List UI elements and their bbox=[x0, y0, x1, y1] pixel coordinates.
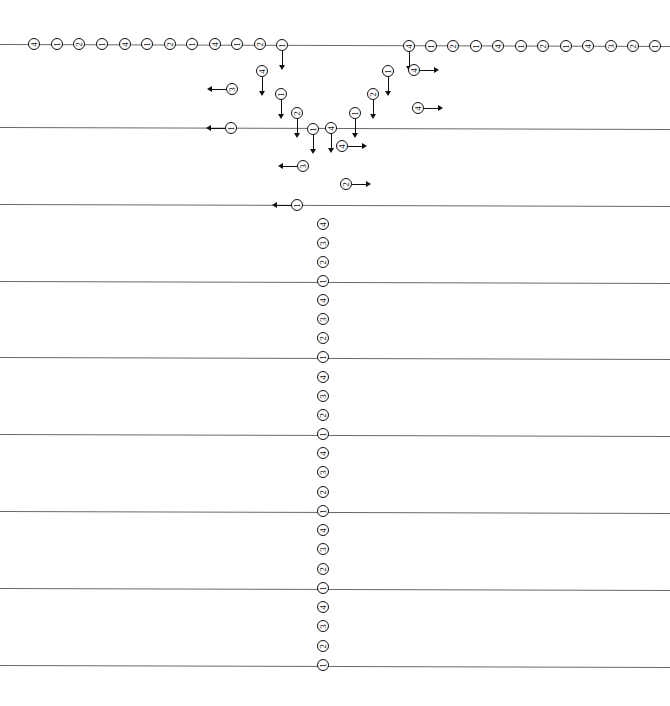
point-marker-circle: 1 bbox=[317, 275, 329, 287]
gridline-3 bbox=[0, 204, 670, 207]
point-marker-label: 4 bbox=[327, 126, 336, 131]
point-marker-label: 2 bbox=[319, 567, 328, 572]
point-marker-label: 2 bbox=[539, 44, 548, 49]
point-marker-label: 3 bbox=[228, 87, 237, 92]
point-marker-label: 4 bbox=[258, 69, 267, 74]
point-marker-circle: 1 bbox=[317, 505, 329, 517]
point-marker-circle: 1 bbox=[225, 122, 237, 134]
point-marker-circle: 4 bbox=[336, 140, 348, 152]
point-marker-label: 4 bbox=[410, 68, 419, 73]
point-marker-circle: 2 bbox=[317, 332, 329, 344]
point-marker-circle: 1 bbox=[425, 40, 437, 52]
point-marker-circle: 3 bbox=[317, 390, 329, 402]
point-marker-label: 2 bbox=[319, 413, 328, 418]
point-marker-circle: 3 bbox=[317, 237, 329, 249]
point-marker-label: 4 bbox=[319, 451, 328, 456]
censor-arrow-left-icon bbox=[282, 166, 297, 167]
point-marker-circle: 3 bbox=[317, 620, 329, 632]
point-marker-circle: 2 bbox=[537, 40, 549, 52]
point-marker-circle: 2 bbox=[291, 107, 303, 119]
point-marker-circle: 1 bbox=[96, 38, 108, 50]
point-marker-label: 1 bbox=[293, 203, 302, 208]
point-marker-label: 1 bbox=[143, 42, 152, 47]
point-marker-label: 1 bbox=[319, 279, 328, 284]
point-marker-label: 4 bbox=[319, 528, 328, 533]
point-marker-label: 4 bbox=[319, 605, 328, 610]
point-marker-circle: 4 bbox=[317, 447, 329, 459]
point-marker-label: 1 bbox=[277, 92, 286, 97]
point-marker-circle: 3 bbox=[317, 313, 329, 325]
point-marker-label: 1 bbox=[98, 42, 107, 47]
point-marker-label: 1 bbox=[427, 44, 436, 49]
point-marker-circle: 4 bbox=[582, 40, 594, 52]
censor-arrow-right-icon bbox=[424, 108, 439, 109]
point-marker-label: 3 bbox=[319, 241, 328, 246]
point-marker-label: 1 bbox=[319, 663, 328, 668]
censor-arrow-left-icon bbox=[276, 205, 291, 206]
point-marker-label: 1 bbox=[309, 127, 318, 132]
censor-arrow-left-icon bbox=[211, 89, 226, 90]
point-marker-label: 3 bbox=[319, 470, 328, 475]
point-marker-label: 2 bbox=[342, 182, 351, 187]
point-marker-circle: 1 bbox=[649, 40, 661, 52]
point-marker-circle: 2 bbox=[254, 38, 266, 50]
point-marker-circle: 4 bbox=[317, 371, 329, 383]
point-marker-circle: 1 bbox=[349, 107, 361, 119]
point-marker-circle: 4 bbox=[317, 524, 329, 536]
point-marker-circle: 4 bbox=[325, 122, 337, 134]
gridline-5 bbox=[0, 357, 670, 360]
point-marker-circle: 4 bbox=[408, 64, 420, 76]
censor-arrow-down-icon bbox=[388, 77, 389, 92]
point-marker-circle: 2 bbox=[627, 40, 639, 52]
point-marker-label: 3 bbox=[319, 317, 328, 322]
point-marker-label: 2 bbox=[319, 336, 328, 341]
point-marker-label: 1 bbox=[53, 42, 62, 47]
point-marker-label: 1 bbox=[472, 44, 481, 49]
point-marker-label: 1 bbox=[188, 42, 197, 47]
point-marker-label: 1 bbox=[562, 44, 571, 49]
point-marker-label: 4 bbox=[338, 144, 347, 149]
censor-arrow-down-icon bbox=[355, 119, 356, 134]
point-marker-circle: 2 bbox=[317, 486, 329, 498]
point-marker-circle: 1 bbox=[317, 428, 329, 440]
point-marker-circle: 4 bbox=[28, 38, 40, 50]
point-marker-circle: 1 bbox=[276, 39, 288, 51]
point-marker-circle: 2 bbox=[164, 38, 176, 50]
point-marker-circle: 2 bbox=[340, 178, 352, 190]
point-marker-circle: 4 bbox=[317, 601, 329, 613]
gridline-4 bbox=[0, 281, 670, 284]
point-marker-label: 1 bbox=[319, 355, 328, 360]
point-marker-label: 4 bbox=[414, 106, 423, 111]
censor-arrow-right-icon bbox=[420, 70, 435, 71]
gridline-8 bbox=[0, 588, 670, 591]
scatter-plot-canvas: 4121412141214312114432112144412141214321… bbox=[0, 0, 670, 706]
gridline-9 bbox=[0, 665, 670, 668]
gridline-6 bbox=[0, 434, 670, 437]
point-marker-circle: 1 bbox=[560, 40, 572, 52]
point-marker-circle: 3 bbox=[317, 543, 329, 555]
point-marker-circle: 1 bbox=[317, 659, 329, 671]
censor-arrow-right-icon bbox=[348, 146, 363, 147]
point-marker-label: 3 bbox=[299, 164, 308, 169]
point-marker-label: 4 bbox=[319, 298, 328, 303]
point-marker-circle: 4 bbox=[317, 294, 329, 306]
point-marker-label: 2 bbox=[319, 644, 328, 649]
censor-arrow-down-icon bbox=[297, 119, 298, 134]
point-marker-label: 4 bbox=[211, 42, 220, 47]
point-marker-label: 2 bbox=[319, 260, 328, 265]
censor-arrow-down-icon bbox=[373, 100, 374, 115]
point-marker-circle: 1 bbox=[141, 38, 153, 50]
point-marker-label: 3 bbox=[607, 44, 616, 49]
point-marker-circle: 3 bbox=[317, 466, 329, 478]
point-marker-circle: 4 bbox=[403, 40, 415, 52]
point-marker-circle: 4 bbox=[317, 218, 329, 230]
point-marker-circle: 2 bbox=[317, 563, 329, 575]
point-marker-label: 1 bbox=[233, 42, 242, 47]
point-marker-circle: 1 bbox=[317, 351, 329, 363]
point-marker-label: 1 bbox=[319, 586, 328, 591]
point-marker-label: 4 bbox=[405, 44, 414, 49]
point-marker-circle: 1 bbox=[275, 88, 287, 100]
point-marker-label: 4 bbox=[30, 42, 39, 47]
point-marker-label: 2 bbox=[75, 42, 84, 47]
point-marker-label: 2 bbox=[319, 490, 328, 495]
